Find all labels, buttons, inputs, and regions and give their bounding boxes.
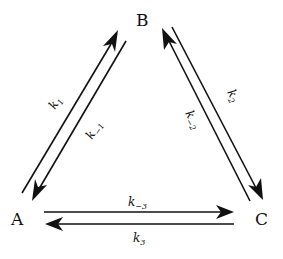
rate-label-k-minus-3: k−3 <box>128 195 147 211</box>
rate-label-k-minus-1: k−1 <box>83 118 107 143</box>
svg-text:k3: k3 <box>133 231 145 247</box>
svg-text:k−1: k−1 <box>83 118 107 143</box>
rate-label-k2: k2 <box>223 87 243 105</box>
svg-text:k−3: k−3 <box>128 195 147 211</box>
edge-b-to-a <box>32 41 126 201</box>
edge-a-to-b <box>22 30 118 193</box>
edge-c-to-a <box>45 217 234 231</box>
rate-label-k3: k3 <box>133 231 145 247</box>
node-a-label: A <box>10 209 24 229</box>
arrowhead-icon <box>32 179 47 201</box>
reaction-triangle-diagram: B A C k1 k−1 k2 k−2 k <box>0 0 283 259</box>
arrowhead-icon <box>248 178 263 200</box>
node-b-label: B <box>136 10 149 30</box>
node-c-label: C <box>255 209 268 229</box>
rate-label-k-minus-2: k−2 <box>181 108 204 132</box>
svg-text:k2: k2 <box>223 87 243 105</box>
svg-text:k−2: k−2 <box>181 108 204 132</box>
edge-c-to-b <box>162 28 250 201</box>
arrowhead-icon <box>103 30 118 52</box>
svg-text:k1: k1 <box>46 94 66 113</box>
rate-label-k1: k1 <box>46 94 66 113</box>
